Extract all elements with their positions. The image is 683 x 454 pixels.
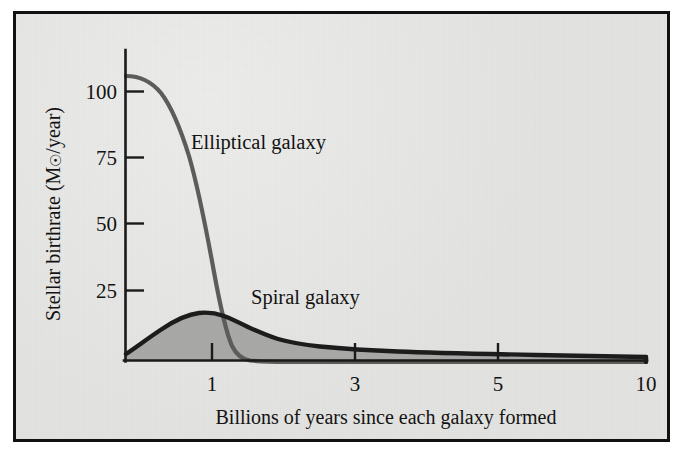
x-tick-label-1: 1 (207, 372, 218, 396)
y-axis-title: Stellar birthrate (M☉/year) (42, 107, 65, 321)
y-tick-label-75: 75 (96, 146, 117, 170)
x-tick-label-5: 5 (493, 372, 504, 396)
y-tick-label-25: 25 (96, 279, 117, 303)
spiral-galaxy-label: Spiral galaxy (251, 286, 360, 309)
y-axis-title-suffix: /year) (42, 107, 65, 154)
y-tick-label-50: 50 (96, 212, 117, 236)
x-tick-label-10: 10 (636, 372, 657, 396)
chart-frame-border: 100 75 50 25 1 3 5 10 Billions of years … (13, 11, 670, 442)
sun-symbol-icon: ☉ (48, 154, 64, 167)
x-tick-label-3: 3 (350, 372, 361, 396)
y-axis-title-prefix: Stellar birthrate (M (42, 166, 65, 321)
x-axis-title: Billions of years since each galaxy form… (216, 406, 557, 429)
y-axis-title-group: Stellar birthrate (M☉/year) (42, 107, 65, 321)
figure-container: 100 75 50 25 1 3 5 10 Billions of years … (0, 0, 683, 454)
y-tick-label-100: 100 (86, 80, 118, 104)
elliptical-galaxy-label: Elliptical galaxy (191, 131, 327, 154)
stellar-birthrate-chart: 100 75 50 25 1 3 5 10 Billions of years … (16, 14, 667, 439)
